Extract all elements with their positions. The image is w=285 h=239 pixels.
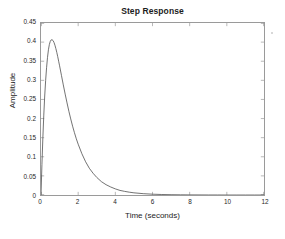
x-tick-label: 4	[113, 199, 117, 205]
y-tick-label: 0.15	[24, 135, 36, 141]
plot-svg	[41, 23, 264, 195]
y-tick-label: 0.2	[27, 115, 36, 121]
y-axis-tick-labels: 00.050.10.150.20.250.30.350.40.45	[0, 22, 36, 196]
plot-area	[40, 22, 265, 196]
x-tick-label: 8	[188, 199, 192, 205]
y-tick-label: 0.35	[24, 57, 36, 63]
y-tick-label: 0.3	[27, 77, 36, 83]
bottom-caption	[18, 229, 268, 238]
y-axis-title: Amplitude	[8, 46, 17, 136]
figure-canvas: Step Response 00.050.10.150.20.250.30.35…	[0, 0, 285, 239]
y-tick-label: 0.45	[24, 19, 36, 25]
x-tick-label: 10	[224, 199, 231, 205]
y-tick-label: 0	[32, 193, 36, 199]
x-tick-label: 2	[76, 199, 80, 205]
y-tick-label: 0.4	[27, 38, 36, 44]
page-title: Step Response	[40, 6, 265, 16]
stray-speck	[271, 32, 273, 34]
x-tick-label: 6	[151, 199, 155, 205]
x-tick-label: 0	[38, 199, 42, 205]
step-response-curve	[41, 40, 264, 195]
x-axis-title: Time (seconds)	[40, 211, 265, 220]
tick-marks	[41, 23, 264, 195]
y-tick-label: 0.25	[24, 96, 36, 102]
y-tick-label: 0.1	[27, 154, 36, 160]
x-axis-tick-labels: 024681012	[40, 199, 265, 209]
y-tick-label: 0.05	[24, 173, 36, 179]
x-tick-label: 12	[261, 199, 268, 205]
